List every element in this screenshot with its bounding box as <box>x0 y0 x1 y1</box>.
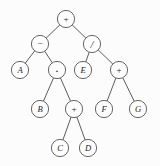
tree-edge <box>107 78 116 101</box>
tree-node-label: + <box>71 104 76 114</box>
tree-node[interactable]: / <box>83 35 100 52</box>
tree-node-label: · <box>55 63 59 78</box>
tree-edge <box>45 51 53 63</box>
tree-node[interactable]: + <box>65 100 82 117</box>
tree-edge <box>60 78 70 101</box>
tree-node-label: C <box>57 143 63 153</box>
expression-tree-canvas: +−/A·E+B+FGCD <box>0 0 160 166</box>
tree-edge <box>98 50 113 64</box>
node-layer: +−/A·E+B+FGCD <box>11 10 146 156</box>
tree-node[interactable]: C <box>51 139 68 156</box>
tree-node-label: F <box>100 104 107 114</box>
tree-node-label: + <box>63 14 68 24</box>
tree-node-label: D <box>84 143 92 153</box>
tree-node-label: B <box>37 104 43 114</box>
tree-node-label: A <box>16 65 23 75</box>
tree-node-label: G <box>135 104 142 114</box>
tree-node-label: E <box>79 65 86 75</box>
tree-node[interactable]: F <box>95 100 112 117</box>
tree-node[interactable]: G <box>129 100 146 117</box>
tree-node[interactable]: D <box>79 139 96 156</box>
tree-edge <box>25 51 35 63</box>
tree-edge <box>46 25 60 38</box>
tree-node[interactable]: + <box>57 10 74 27</box>
tree-node[interactable]: + <box>110 61 127 78</box>
tree-node[interactable]: A <box>11 61 28 78</box>
tree-node-label: + <box>116 65 121 75</box>
tree-node[interactable]: E <box>74 61 91 78</box>
expression-tree-figure: +−/A·E+B+FGCD <box>0 0 160 166</box>
tree-node[interactable]: B <box>31 100 48 117</box>
tree-edge <box>63 117 71 140</box>
tree-edge <box>123 78 134 102</box>
tree-edge <box>86 52 89 62</box>
tree-node-label: − <box>37 39 42 49</box>
tree-node[interactable]: · <box>48 61 65 78</box>
tree-edge <box>77 117 85 140</box>
tree-edge <box>72 25 86 38</box>
tree-node[interactable]: − <box>31 35 48 52</box>
tree-edge <box>43 78 53 101</box>
